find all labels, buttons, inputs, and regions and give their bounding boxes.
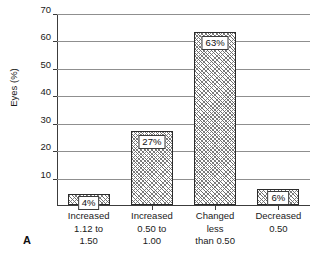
x-category-label-line: less [184, 223, 247, 236]
gridline [57, 96, 310, 97]
bar-value-label: 27% [138, 135, 165, 149]
bar: 27% [131, 131, 173, 205]
x-category-label: Increased1.12 to1.50 [57, 210, 120, 248]
y-tick-label: 50 [40, 64, 51, 65]
y-tick-label: 20 [40, 146, 51, 147]
y-tick-label: 30 [40, 119, 51, 120]
y-tick-label: 10 [40, 174, 51, 175]
y-axis-line [57, 14, 58, 206]
bar-value-label: 63% [202, 36, 229, 50]
bar: 4% [68, 194, 110, 205]
y-tick-label: 40 [40, 91, 51, 92]
y-tick-mark [53, 41, 57, 42]
gridline [57, 14, 310, 15]
x-category-label-line: 1.50 [57, 235, 120, 248]
figure-panel: Eyes (%) 10203040506070 4%27%63%6% Incre… [0, 0, 321, 254]
y-tick-label: 60 [40, 36, 51, 37]
x-category-label-line: Decreased [247, 210, 310, 223]
x-category-label-line: 0.50 [247, 223, 310, 236]
gridline [57, 151, 310, 152]
gridline [57, 41, 310, 42]
x-category-label-line: 1.00 [120, 235, 183, 248]
x-category-label-line: Increased [57, 210, 120, 223]
x-category-label-line: 0.50 to [120, 223, 183, 236]
y-tick-label: 70 [40, 9, 51, 10]
gridline [57, 179, 310, 180]
bar-value-label: 6% [268, 191, 290, 205]
x-category-label: Changedlessthan 0.50 [184, 210, 247, 248]
x-category-label: Increased0.50 to1.00 [120, 210, 183, 248]
gridline [57, 124, 310, 125]
bar-value-label: 4% [78, 196, 100, 210]
plot-area: 10203040506070 4%27%63%6% [57, 14, 310, 206]
x-category-label-line: 1.12 to [57, 223, 120, 236]
bar: 6% [257, 189, 299, 205]
y-tick-mark [53, 124, 57, 125]
x-category-label-line: than 0.50 [184, 235, 247, 248]
y-tick-mark [53, 179, 57, 180]
bar: 63% [194, 32, 236, 205]
y-tick-mark [53, 96, 57, 97]
x-category-label: Decreased0.50 [247, 210, 310, 235]
y-tick-mark [53, 14, 57, 15]
x-category-label-line: Increased [120, 210, 183, 223]
gridline [57, 69, 310, 70]
y-tick-mark [53, 151, 57, 152]
y-tick-mark [53, 69, 57, 70]
panel-letter: A [23, 234, 31, 246]
y-axis-title: Eyes (%) [8, 48, 19, 128]
x-category-label-line: Changed [184, 210, 247, 223]
